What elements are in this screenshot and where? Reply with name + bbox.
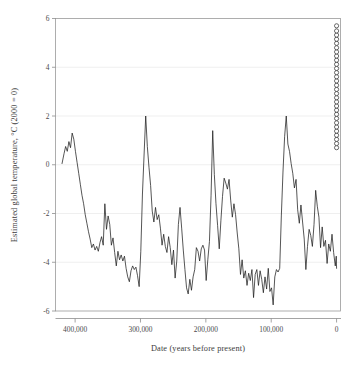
x-tick-label: 400,000 bbox=[63, 325, 87, 334]
projection-marker bbox=[334, 50, 338, 54]
y-tick-label: 6 bbox=[46, 14, 50, 23]
projection-marker bbox=[334, 54, 338, 58]
y-tick-label: 0 bbox=[46, 160, 50, 169]
projection-marker bbox=[334, 96, 338, 100]
projection-marker bbox=[334, 146, 338, 150]
projection-marker bbox=[334, 104, 338, 108]
projection-marker-series bbox=[334, 24, 338, 150]
projection-marker bbox=[334, 37, 338, 41]
projection-marker bbox=[334, 112, 338, 116]
projection-marker bbox=[334, 129, 338, 133]
projection-marker bbox=[334, 79, 338, 83]
temperature-line-chart: 6420-2-4-6 400,000300,000200,000100,0000… bbox=[0, 0, 356, 366]
projection-marker bbox=[334, 108, 338, 112]
x-tick-label: 200,000 bbox=[194, 325, 218, 334]
x-axis-title: Date (years before present) bbox=[151, 344, 245, 353]
y-tick-label: 2 bbox=[46, 112, 50, 121]
projection-marker bbox=[334, 41, 338, 45]
projection-marker bbox=[334, 62, 338, 66]
x-tick-label: 300,000 bbox=[128, 325, 152, 334]
projection-marker bbox=[334, 58, 338, 62]
projection-marker bbox=[334, 121, 338, 125]
projection-marker bbox=[334, 33, 338, 37]
projection-marker bbox=[334, 75, 338, 79]
projection-marker bbox=[334, 46, 338, 50]
projection-marker bbox=[334, 125, 338, 129]
projection-marker bbox=[334, 66, 338, 70]
projection-marker bbox=[334, 100, 338, 104]
projection-marker bbox=[334, 116, 338, 120]
projection-marker bbox=[334, 71, 338, 75]
y-tick-label: 4 bbox=[46, 63, 50, 72]
projection-marker bbox=[334, 141, 338, 145]
projection-marker bbox=[334, 91, 338, 95]
projection-marker bbox=[334, 137, 338, 141]
projection-marker bbox=[334, 83, 338, 87]
projection-marker bbox=[334, 87, 338, 91]
projection-marker bbox=[334, 133, 338, 137]
y-tick-label: -2 bbox=[43, 209, 49, 218]
y-tick-label: -4 bbox=[43, 258, 49, 267]
chart-figure: 6420-2-4-6 400,000300,000200,000100,0000… bbox=[0, 0, 356, 366]
y-tick-label: -6 bbox=[43, 307, 49, 316]
projection-marker bbox=[334, 29, 338, 33]
x-tick-label: 0 bbox=[335, 325, 339, 334]
projection-marker bbox=[334, 24, 338, 28]
x-tick-label: 100,000 bbox=[259, 325, 283, 334]
y-axis-title: Estimated global temperature, °C (2000 =… bbox=[10, 88, 19, 242]
